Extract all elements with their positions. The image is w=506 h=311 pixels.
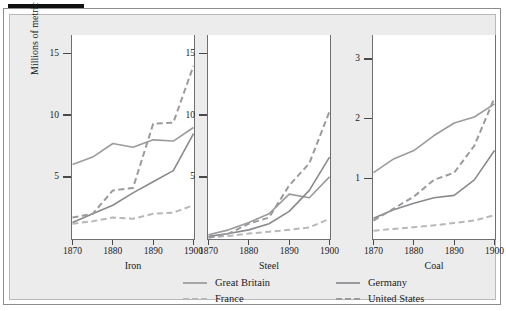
legend-swatch-germany — [335, 278, 361, 288]
y-tick-0-2 — [63, 53, 71, 54]
y-axis-title: Millions of metric tons — [29, 0, 40, 75]
y-tick-2-2 — [364, 58, 372, 59]
y-tick-2-1 — [364, 118, 372, 119]
x-tick-label-0-1: 1880 — [96, 246, 130, 257]
x-tick-label-2-3: 1900 — [478, 246, 506, 257]
x-tick-label-1-0: 1870 — [192, 246, 226, 257]
x-tick-label-0-0: 1870 — [56, 246, 90, 257]
plot-lines-iron — [71, 35, 195, 240]
y-tick-label-0-2: 15 — [33, 48, 59, 58]
x-tick-0-1 — [112, 240, 113, 245]
x-tick-0-0 — [72, 240, 73, 245]
y-tick-0-1 — [63, 114, 71, 115]
series-line-united-states — [73, 66, 194, 218]
x-tick-label-2-0: 1870 — [357, 246, 391, 257]
series-line-united-states — [209, 111, 330, 237]
y-tick-0-0 — [63, 176, 71, 177]
x-tick-2-0 — [373, 240, 374, 245]
y-tick-label-0-0: 5 — [33, 171, 59, 181]
y-tick-1-2 — [199, 53, 207, 54]
panel-coal — [372, 35, 496, 240]
x-tick-1-2 — [289, 240, 290, 245]
x-tick-label-0-2: 1890 — [136, 246, 170, 257]
y-tick-label-0-1: 10 — [33, 110, 59, 120]
x-tick-0-3 — [193, 240, 194, 245]
y-tick-1-0 — [199, 176, 207, 177]
panel-title-coal: Coal — [389, 260, 479, 271]
x-tick-label-1-1: 1880 — [232, 246, 266, 257]
x-tick-label-2-2: 1890 — [437, 246, 471, 257]
x-tick-1-1 — [248, 240, 249, 245]
x-tick-2-2 — [454, 240, 455, 245]
y-tick-label-1-2: 15 — [169, 48, 195, 58]
legend-label-germany: Germany — [368, 277, 407, 288]
x-tick-1-3 — [329, 240, 330, 245]
y-tick-label-1-1: 10 — [169, 110, 195, 120]
series-line-great-britain — [73, 128, 194, 165]
figure-root: Millions of metric tons 5101518701880189… — [0, 0, 506, 311]
y-tick-label-2-0: 1 — [334, 173, 360, 183]
y-tick-2-0 — [364, 178, 372, 179]
series-line-france — [209, 219, 330, 238]
plot-lines-coal — [372, 35, 496, 240]
y-tick-label-2-2: 3 — [334, 53, 360, 63]
series-line-france — [374, 215, 495, 231]
y-tick-label-2-1: 2 — [334, 113, 360, 123]
figure-caption — [14, 303, 484, 311]
x-tick-2-1 — [413, 240, 414, 245]
y-tick-label-1-0: 5 — [169, 171, 195, 181]
panel-iron — [71, 35, 195, 240]
panel-title-steel: Steel — [224, 260, 314, 271]
x-tick-0-2 — [153, 240, 154, 245]
x-tick-2-3 — [494, 240, 495, 245]
x-tick-label-2-1: 1880 — [397, 246, 431, 257]
x-tick-1-0 — [208, 240, 209, 245]
figure-plate: Millions of metric tons 5101518701880189… — [9, 14, 496, 300]
legend-label-great-britain: Great Britain — [215, 277, 270, 288]
y-tick-1-1 — [199, 114, 207, 115]
series-line-great-britain — [374, 104, 495, 173]
legend-swatch-great-britain — [182, 278, 208, 288]
x-tick-label-1-3: 1900 — [313, 246, 347, 257]
plot-lines-steel — [207, 35, 331, 240]
x-tick-label-1-2: 1890 — [272, 246, 306, 257]
panel-title-iron: Iron — [88, 260, 178, 271]
panel-steel — [207, 35, 331, 240]
